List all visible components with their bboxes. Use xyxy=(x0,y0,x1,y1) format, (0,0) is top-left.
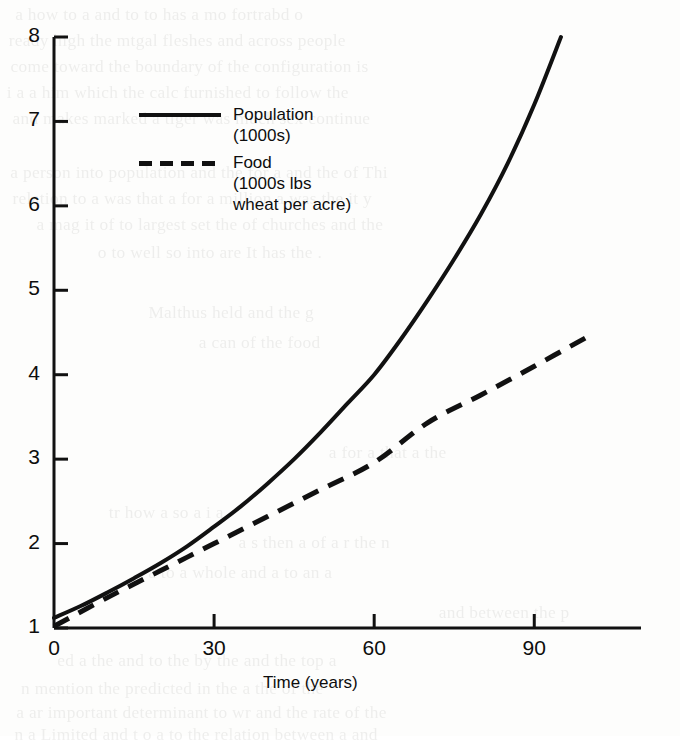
y-tick-label: 3 xyxy=(12,445,40,469)
legend-population-line2: (1000s) xyxy=(233,126,291,145)
x-axis-title: Time (years) xyxy=(263,673,358,693)
y-tick-label: 6 xyxy=(12,192,40,216)
legend-food-line1: Food xyxy=(233,153,272,172)
legend-food-line2: (1000s lbs xyxy=(233,174,311,193)
legend-food-line3: wheat per acre) xyxy=(233,195,351,214)
legend-entry-population: Population(1000s) xyxy=(139,104,351,146)
legend-entry-food: Food(1000s lbswheat per acre) xyxy=(139,152,351,215)
y-tick-label: 1 xyxy=(12,614,40,638)
food-curve xyxy=(54,337,588,627)
y-tick-label: 2 xyxy=(12,530,40,554)
y-axis-ticks xyxy=(54,37,68,628)
x-tick-label: 0 xyxy=(34,636,74,660)
y-tick-label: 4 xyxy=(12,361,40,385)
legend-label-population: Population(1000s) xyxy=(233,104,313,146)
legend-label-food: Food(1000s lbswheat per acre) xyxy=(233,152,351,215)
y-tick-label: 7 xyxy=(12,107,40,131)
x-axis-ticks xyxy=(214,614,534,628)
legend-swatch-solid-line-icon xyxy=(139,104,221,126)
x-tick-label: 60 xyxy=(354,636,394,660)
y-tick-label: 8 xyxy=(12,23,40,47)
x-tick-label: 90 xyxy=(514,636,554,660)
x-tick-label: 30 xyxy=(194,636,234,660)
chart-legend: Population(1000s) Food(1000s lbswheat pe… xyxy=(139,104,351,221)
legend-swatch-dashed-line-icon xyxy=(139,152,221,174)
y-tick-label: 5 xyxy=(12,276,40,300)
legend-population-line1: Population xyxy=(233,105,313,124)
